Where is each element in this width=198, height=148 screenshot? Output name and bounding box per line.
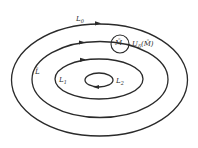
label-l0: L0 xyxy=(75,15,85,24)
curve-lbar: L̄ xyxy=(32,40,168,117)
curve-lbar-ellipse xyxy=(32,42,168,118)
curve-l2: L2 xyxy=(85,73,124,89)
label-l1: L1 xyxy=(58,76,67,85)
label-point-m: M̄ xyxy=(114,38,123,47)
label-lbar: L̄ xyxy=(34,67,40,76)
label-l2: L2 xyxy=(115,77,124,86)
arrow-icon xyxy=(79,40,85,44)
label-neighborhood: Uδ(M̄) xyxy=(132,39,154,49)
arrow-icon xyxy=(93,85,99,89)
curve-l1-ellipse xyxy=(55,59,143,99)
curve-l1: L1 xyxy=(55,58,143,99)
arrow-icon xyxy=(95,21,101,25)
nested-curves-diagram: L0 L̄ L1 L2 M̄ Uδ(M̄) xyxy=(0,0,198,148)
neighborhood-m: M̄ Uδ(M̄) xyxy=(111,35,154,53)
curve-l0-ellipse xyxy=(12,24,188,136)
arrow-icon xyxy=(80,58,86,62)
curve-l2-ellipse xyxy=(85,73,113,87)
